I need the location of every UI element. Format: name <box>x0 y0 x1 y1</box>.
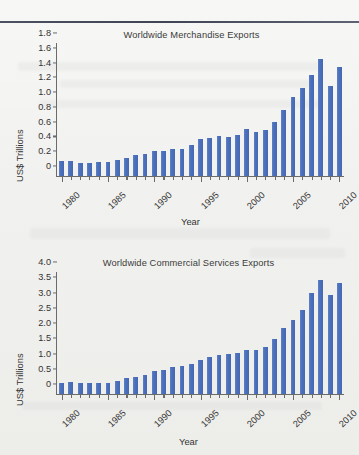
y-tick-label: 0.6 <box>38 117 57 127</box>
x-tick-label: 2010 <box>337 190 359 211</box>
x-tick-label: 1995 <box>199 190 221 211</box>
bar <box>198 139 203 176</box>
bar <box>244 129 249 176</box>
bar <box>189 145 194 176</box>
x-tick-mark <box>330 176 331 180</box>
bar <box>161 151 166 176</box>
x-tick-mark <box>275 394 276 398</box>
x-tick-mark <box>145 176 146 180</box>
bar <box>217 136 222 176</box>
x-tick-label: 1995 <box>199 408 221 429</box>
y-tick-label: 1.5 <box>38 333 57 343</box>
x-tick-label: 1980 <box>60 190 82 211</box>
x-tick-mark <box>108 176 109 182</box>
bar <box>217 355 222 394</box>
y-tick-label: 0 <box>46 379 57 389</box>
bar <box>78 163 83 176</box>
bar <box>189 364 194 395</box>
x-tick-mark <box>284 394 285 398</box>
y-tick-label: 1.8 <box>38 28 57 38</box>
x-tick-mark <box>117 176 118 180</box>
x-tick-mark <box>154 176 155 182</box>
bar <box>96 383 101 394</box>
bar <box>272 122 277 176</box>
bar <box>263 347 268 394</box>
x-tick-mark <box>275 176 276 180</box>
bar <box>170 149 175 176</box>
x-tick-label: 1985 <box>106 190 128 211</box>
y-tick-label: 3.5 <box>38 272 57 282</box>
y-tick-label: 1.0 <box>38 87 57 97</box>
bar <box>244 350 249 394</box>
x-tick-mark <box>293 394 294 400</box>
x-tick-mark <box>321 176 322 180</box>
bar <box>96 162 101 176</box>
bar <box>124 158 129 176</box>
x-tick-mark <box>182 394 183 398</box>
x-tick-mark <box>182 176 183 180</box>
x-tick-mark <box>302 394 303 398</box>
bar <box>133 155 138 176</box>
bar-series <box>57 272 344 394</box>
x-tick-mark <box>312 394 313 398</box>
x-tick-mark <box>339 394 340 400</box>
x-tick-mark <box>99 176 100 180</box>
bar <box>281 328 286 394</box>
x-tick-label: 2005 <box>291 408 313 429</box>
bar <box>263 130 268 176</box>
x-tick-mark <box>339 176 340 182</box>
y-tick-label: 0.8 <box>38 102 57 112</box>
x-tick-label: 2010 <box>337 408 359 429</box>
x-axis-label: Year <box>0 436 359 447</box>
bar <box>59 161 64 176</box>
x-tick-mark <box>312 176 313 180</box>
y-tick-label: 4.0 <box>38 257 57 267</box>
x-tick-label: 2000 <box>245 408 267 429</box>
bar <box>272 339 277 394</box>
x-axis-label: Year <box>0 216 359 227</box>
x-tick-mark <box>238 394 239 398</box>
x-tick-label: 2000 <box>245 190 267 211</box>
bar <box>291 320 296 394</box>
bar <box>235 353 240 394</box>
bar <box>78 383 83 394</box>
chart-merchandise-exports: Worldwide Merchandise Exports US$ Trilli… <box>0 30 359 230</box>
x-tick-label: 1990 <box>152 190 174 211</box>
x-tick-label: 1990 <box>152 408 174 429</box>
x-tick-mark <box>256 176 257 180</box>
x-tick-mark <box>210 394 211 398</box>
x-tick-mark <box>62 176 63 182</box>
bar <box>152 151 157 176</box>
y-tick-label: 0.5 <box>38 364 57 374</box>
x-tick-label: 1985 <box>106 408 128 429</box>
bar <box>87 383 92 394</box>
x-tick-mark <box>256 394 257 398</box>
x-tick-mark <box>302 176 303 180</box>
bar <box>300 310 305 394</box>
bar <box>115 381 120 394</box>
x-tick-mark <box>219 176 220 180</box>
x-tick-mark <box>247 394 248 400</box>
x-tick-mark <box>265 394 266 398</box>
bar <box>328 86 333 176</box>
x-tick-mark <box>136 176 137 180</box>
x-tick-mark <box>219 394 220 398</box>
x-tick-mark <box>265 176 266 180</box>
bar <box>180 149 185 176</box>
x-tick-mark <box>117 394 118 398</box>
x-tick-mark <box>238 176 239 180</box>
x-tick-mark <box>173 394 174 398</box>
x-tick-mark <box>108 394 109 400</box>
bar <box>161 370 166 394</box>
bar <box>318 280 323 394</box>
bar <box>291 97 296 176</box>
x-tick-mark <box>145 394 146 398</box>
bar <box>143 154 148 176</box>
y-axis-label: US$ Trillions <box>14 129 25 182</box>
bar <box>207 138 212 176</box>
y-axis-label: US$ Trillions <box>14 353 25 406</box>
x-tick-mark <box>293 176 294 182</box>
x-tick-mark <box>62 394 63 400</box>
x-tick-mark <box>228 176 229 180</box>
x-tick-mark <box>201 176 202 182</box>
